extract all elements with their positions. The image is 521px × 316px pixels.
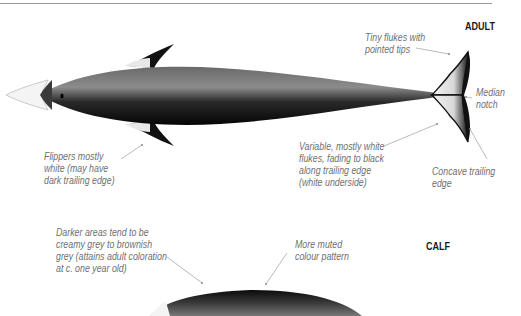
annotation-darker-areas: Darker areas tend to be creamy grey to b… [56, 226, 167, 274]
annotation-muted-pattern: More muted colour pattern [295, 238, 349, 262]
annotation-median-notch: Median notch [476, 86, 505, 110]
annotation-flippers: Flippers mostly white (may have dark tra… [44, 150, 115, 186]
annotation-concave-edge: Concave trailing edge [432, 165, 495, 189]
adult-dolphin [6, 44, 470, 146]
adult-label: ADULT [465, 20, 495, 32]
calf-label: CALF [426, 240, 450, 252]
annotation-fluke-tips: Tiny flukes with pointed tips [365, 31, 425, 55]
annotation-variable-flukes: Variable, mostly white flukes, fading to… [299, 140, 384, 188]
calf-dolphin [150, 290, 362, 316]
